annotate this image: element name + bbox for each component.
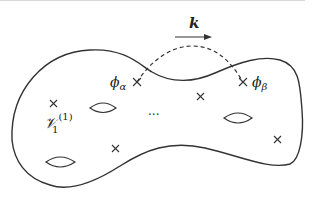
hole-3 (46, 157, 75, 167)
momentum-arrow (175, 34, 212, 40)
hole-2 (224, 113, 252, 123)
phi-beta-label: ϕβ (252, 74, 268, 92)
hole-1 (90, 103, 116, 113)
dashed-propagator (137, 46, 243, 82)
phi-alpha-label: ϕα (110, 74, 127, 92)
ellipsis: ··· (148, 108, 159, 122)
cross-3 (274, 136, 281, 143)
cross-phi-alpha (133, 78, 141, 86)
surface-diagram: k ϕα ϕβ ··· 𝒱1(1) (0, 0, 312, 208)
cross-phi-beta (239, 78, 247, 86)
cross-vertex (50, 100, 57, 107)
cross-1 (197, 93, 204, 100)
cross-2 (112, 145, 119, 152)
momentum-label: k (189, 14, 199, 32)
vertex-label: 𝒱1(1) (44, 111, 73, 135)
